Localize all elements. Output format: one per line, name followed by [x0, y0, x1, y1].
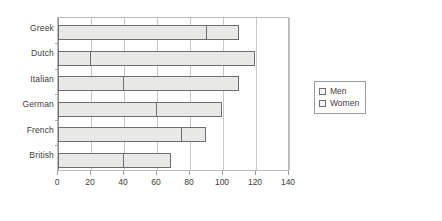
legend-label-women: Women — [330, 98, 359, 108]
x-axis-tick-label-140: 140 — [281, 177, 295, 187]
x-axis-tick — [222, 171, 223, 175]
plot-area — [57, 17, 289, 171]
bar-segment-women — [90, 51, 255, 66]
bar-row — [58, 127, 206, 142]
category-tick — [55, 145, 58, 146]
gridline-100 — [223, 18, 224, 170]
bar-row — [58, 51, 255, 66]
category-tick — [55, 43, 58, 44]
gridline-40 — [124, 18, 125, 170]
bar-segment-men — [58, 51, 91, 66]
x-axis-tick-label-20: 20 — [85, 177, 94, 187]
legend: Men Women — [314, 81, 366, 114]
gridline-60 — [157, 18, 158, 170]
bar-segment-men — [58, 102, 157, 117]
x-axis-tick-label-120: 120 — [248, 177, 262, 187]
bar-segment-men — [58, 25, 207, 40]
bar-row — [58, 25, 239, 40]
y-axis-category-labels: Greek Dutch Italian German French Britis… — [6, 18, 54, 170]
legend-item-men: Men — [319, 85, 359, 97]
y-axis-label-italian: Italian — [6, 75, 54, 84]
bar-row — [58, 102, 222, 117]
bar-row — [58, 153, 171, 168]
bar-segment-women — [123, 76, 239, 91]
y-axis-line — [58, 18, 59, 170]
bar-segment-women — [156, 102, 222, 117]
category-tick — [55, 94, 58, 95]
x-axis-tick — [288, 171, 289, 175]
gridline-140 — [289, 18, 290, 170]
x-axis-tick-label-80: 80 — [184, 177, 193, 187]
bar-row — [58, 76, 239, 91]
gridline-80 — [190, 18, 191, 170]
x-axis: 0 20 40 60 80 100 120 140 — [57, 171, 289, 195]
gridline-20 — [91, 18, 92, 170]
category-tick — [55, 69, 58, 70]
y-axis-label-british: British — [6, 151, 54, 160]
gridline-120 — [256, 18, 257, 170]
x-axis-tick-label-60: 60 — [151, 177, 160, 187]
y-axis-label-french: French — [6, 126, 54, 135]
x-axis-tick — [189, 171, 190, 175]
bar-segment-women — [181, 127, 206, 142]
x-axis-tick — [255, 171, 256, 175]
x-axis-tick-label-100: 100 — [215, 177, 229, 187]
x-axis-tick-label-40: 40 — [118, 177, 127, 187]
x-axis-tick-label-0: 0 — [55, 177, 60, 187]
bar-segment-men — [58, 76, 124, 91]
x-axis-tick — [123, 171, 124, 175]
y-axis-label-german: German — [6, 100, 54, 109]
bar-segment-men — [58, 127, 182, 142]
category-tick — [55, 120, 58, 121]
bar-segment-men — [58, 153, 124, 168]
x-axis-tick — [90, 171, 91, 175]
stacked-bar-chart: Greek Dutch Italian German French Britis… — [0, 0, 442, 221]
x-axis-tick — [57, 171, 58, 175]
bar-segment-women — [206, 25, 239, 40]
bar-segment-women — [123, 153, 171, 168]
y-axis-label-greek: Greek — [6, 24, 54, 33]
legend-swatch-icon — [319, 88, 326, 95]
legend-swatch-icon — [319, 100, 326, 107]
y-axis-label-dutch: Dutch — [6, 49, 54, 58]
legend-item-women: Women — [319, 97, 359, 109]
legend-label-men: Men — [330, 86, 347, 96]
x-axis-tick — [156, 171, 157, 175]
